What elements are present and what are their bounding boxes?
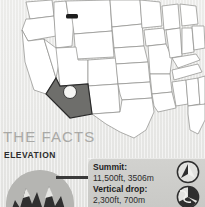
summit-arrow-icon[interactable] bbox=[176, 160, 200, 184]
united-states-map[interactable] bbox=[0, 0, 205, 140]
page-title: THE FACTS bbox=[3, 128, 95, 145]
infographic-page: THE FACTS ELEVATION Summit: 11,500ft, 35… bbox=[0, 0, 205, 207]
facts-list: Summit: 11,500ft, 3506m Vertical drop: 2… bbox=[93, 162, 171, 206]
fact-label-vertical-drop: Vertical drop: bbox=[93, 184, 171, 195]
location-marker-icon[interactable] bbox=[64, 86, 77, 99]
section-label-elevation: ELEVATION bbox=[4, 150, 56, 160]
fact-row-vertical-drop: Vertical drop: 2,300ft, 700m bbox=[93, 184, 171, 206]
fact-label-summit: Summit: bbox=[93, 162, 171, 173]
fact-row-summit: Summit: 11,500ft, 3506m bbox=[93, 162, 171, 184]
fact-value-vertical-drop: 2,300ft, 700m bbox=[93, 195, 171, 206]
panel-icon-group bbox=[176, 160, 202, 207]
vertical-drop-icon[interactable] bbox=[176, 185, 200, 207]
secondary-location-marker-icon[interactable] bbox=[66, 14, 78, 19]
facts-panel: Summit: 11,500ft, 3506m Vertical drop: 2… bbox=[88, 158, 205, 207]
fact-value-summit: 11,500ft, 3506m bbox=[93, 173, 171, 184]
